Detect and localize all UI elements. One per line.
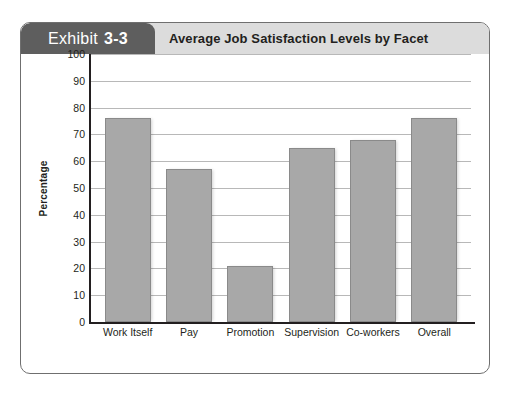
bar-work-itself: [105, 118, 151, 322]
y-tick-label-100: 100: [51, 48, 85, 60]
y-tick-label-0: 0: [51, 316, 85, 328]
x-tick-label-supervision: Supervision: [281, 326, 342, 338]
y-tick-label-90: 90: [51, 75, 85, 87]
bar-co-workers: [350, 140, 396, 322]
y-tick-label-70: 70: [51, 128, 85, 140]
x-axis-labels: Work ItselfPayPromotionSupervisionCo-wor…: [89, 326, 471, 338]
bar-supervision: [289, 148, 335, 322]
y-tick-label-40: 40: [51, 209, 85, 221]
gridline-0: [89, 322, 475, 324]
y-axis-title-label: Percentage: [39, 160, 50, 216]
x-tick-label-overall: Overall: [404, 326, 465, 338]
plot-area: [89, 54, 471, 322]
y-tick-label-80: 80: [51, 102, 85, 114]
x-tick-label-pay: Pay: [158, 326, 219, 338]
y-axis-ticks: 1009080706050403020100: [51, 54, 85, 322]
bar-slot: [281, 54, 342, 322]
exhibit-number: 3-3: [104, 30, 128, 48]
exhibit-header: Exhibit 3-3 Average Job Satisfaction Lev…: [21, 23, 489, 54]
bar-slot: [342, 54, 403, 322]
bar-slot: [97, 54, 158, 322]
x-tick-label-promotion: Promotion: [220, 326, 281, 338]
bar-slot: [220, 54, 281, 322]
exhibit-panel: Exhibit 3-3 Average Job Satisfaction Lev…: [20, 22, 490, 374]
bar-slot: [404, 54, 465, 322]
y-tick-label-30: 30: [51, 236, 85, 248]
bar-overall: [411, 118, 457, 322]
y-tick-label-60: 60: [51, 155, 85, 167]
exhibit-label: Exhibit: [48, 30, 98, 48]
bar-promotion: [227, 266, 273, 322]
x-tick-label-co-workers: Co-workers: [342, 326, 403, 338]
y-tick-label-10: 10: [51, 289, 85, 301]
bar-pay: [166, 169, 212, 322]
y-tick-label-20: 20: [51, 262, 85, 274]
bar-chart: Percentage 1009080706050403020100 Work I…: [21, 54, 489, 374]
exhibit-tab: Exhibit 3-3: [21, 23, 155, 54]
exhibit-title: Average Job Satisfaction Levels by Facet: [169, 23, 428, 54]
x-tick-label-work-itself: Work Itself: [97, 326, 158, 338]
bar-series: [89, 54, 471, 322]
y-tick-label-50: 50: [51, 182, 85, 194]
bar-slot: [158, 54, 219, 322]
